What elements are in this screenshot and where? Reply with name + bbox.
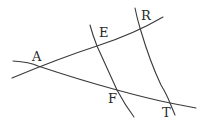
point-label-e: E <box>99 25 109 40</box>
point-label-r: R <box>141 8 152 23</box>
line-RT <box>135 8 175 115</box>
geometry-diagram: AERFT <box>0 0 202 126</box>
point-label-a: A <box>31 49 42 64</box>
line-AFT <box>13 61 196 108</box>
line-AER <box>12 17 163 78</box>
point-label-f: F <box>108 91 117 106</box>
point-label-t: T <box>162 105 171 120</box>
